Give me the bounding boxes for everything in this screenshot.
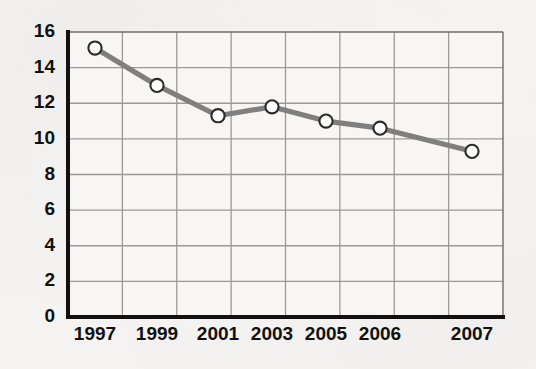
y-axis-tick-labels: 0246810121416 [34,20,56,326]
line-chart-plot: 0246810121416 19971999200120032005200620… [0,0,536,369]
x-axis-tick-label: 1999 [136,323,178,344]
data-point-marker [211,109,224,122]
x-axis-tick-label: 2007 [451,323,493,344]
y-axis-tick-label: 6 [44,198,55,219]
data-point-marker [88,41,101,54]
data-point-marker [265,100,278,113]
y-axis-tick-label: 12 [34,91,55,112]
x-axis-tick-label: 2001 [197,323,240,344]
x-axis-tick-labels: 1997199920012003200520062007 [74,323,493,344]
y-axis-tick-label: 14 [34,56,56,77]
data-point-marker [373,122,386,135]
data-point-marker [319,114,332,127]
y-axis-tick-label: 16 [34,20,55,41]
y-axis-tick-label: 8 [44,163,55,184]
x-axis-tick-label: 2006 [359,323,401,344]
data-point-marker [150,79,163,92]
y-axis-tick-label: 2 [44,269,55,290]
y-axis-tick-label: 4 [44,234,55,255]
x-axis-tick-label: 2003 [251,323,293,344]
y-axis-tick-label: 0 [44,305,55,326]
x-axis-tick-label: 2005 [305,323,348,344]
x-axis-tick-label: 1997 [74,323,116,344]
data-point-marker [465,145,478,158]
y-axis-tick-label: 10 [34,127,55,148]
chart-container: 0246810121416 19971999200120032005200620… [0,0,536,369]
